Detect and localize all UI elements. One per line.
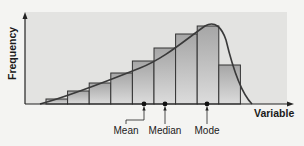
mean-marker xyxy=(142,102,147,107)
histogram-bar xyxy=(68,91,90,104)
histogram-diagram: Frequency Variable Mean Median Mode xyxy=(0,0,304,146)
median-label: Median xyxy=(149,125,182,136)
histogram-bar xyxy=(154,48,176,104)
mean-label: Mean xyxy=(113,125,138,136)
x-axis-arrow-icon xyxy=(287,102,294,107)
mode-marker xyxy=(205,102,210,107)
median-marker xyxy=(163,102,168,107)
histogram-bar xyxy=(219,65,241,104)
y-axis-label: Frequency xyxy=(6,27,18,80)
median-arrow-icon xyxy=(163,107,166,111)
mean-arrow-icon xyxy=(142,107,145,111)
x-axis-label: Variable xyxy=(254,107,294,119)
histogram-bar xyxy=(197,26,219,104)
mean-connector xyxy=(126,120,144,124)
mode-label: Mode xyxy=(194,125,219,136)
mode-arrow-icon xyxy=(205,107,208,111)
